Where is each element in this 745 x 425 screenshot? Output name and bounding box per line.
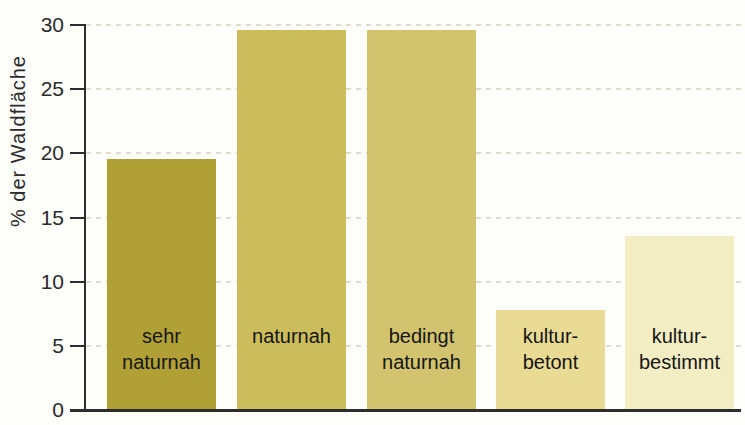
bar-label-kultur-bestimmt: kultur-bestimmt (625, 323, 734, 375)
y-tick-label-30: 30 (0, 12, 64, 38)
y-tick-15 (70, 217, 85, 219)
bar-label-line: bedingt (389, 323, 455, 349)
bar-sehr-naturnah: sehrnaturnah (107, 159, 216, 409)
y-tick-20 (70, 152, 85, 154)
y-tick-label-20: 20 (0, 140, 64, 166)
bar-bedingt-naturnah: bedingtnaturnah (367, 30, 476, 409)
bar-label-kultur-betont: kultur-betont (496, 323, 605, 375)
y-tick-0 (70, 409, 85, 411)
y-tick-5 (70, 345, 85, 347)
y-tick-30 (70, 24, 85, 26)
y-tick-10 (70, 281, 85, 283)
y-tick-label-15: 15 (0, 205, 64, 231)
bar-label-line: sehr (142, 323, 181, 349)
bar-label-bedingt-naturnah: bedingtnaturnah (367, 323, 476, 375)
bar-kultur-bestimmt: kultur-bestimmt (625, 236, 734, 409)
bar-kultur-betont: kultur-betont (496, 310, 605, 409)
y-tick-label-5: 5 (0, 333, 64, 359)
bar-label-sehr-naturnah: sehrnaturnah (107, 323, 216, 375)
y-tick-label-0: 0 (0, 397, 64, 423)
bar-label-line: kultur- (652, 323, 708, 349)
y-tick-25 (70, 88, 85, 90)
y-tick-label-10: 10 (0, 269, 64, 295)
bar-label-line: kultur- (523, 323, 579, 349)
bar-label-line: bestimmt (639, 349, 720, 375)
bar-label-line: naturnah (122, 349, 201, 375)
bar-label-naturnah: naturnah (237, 323, 346, 375)
bar-naturnah: naturnah (237, 30, 346, 409)
bar-label-line: naturnah (252, 323, 331, 349)
bar-label-line: naturnah (382, 349, 461, 375)
y-tick-label-25: 25 (0, 76, 64, 102)
bar-chart: % der Waldfläche 051015202530sehrnaturna… (0, 0, 745, 425)
gridline-30 (86, 24, 741, 26)
bar-label-line: betont (523, 349, 579, 375)
x-axis-line (70, 409, 741, 412)
